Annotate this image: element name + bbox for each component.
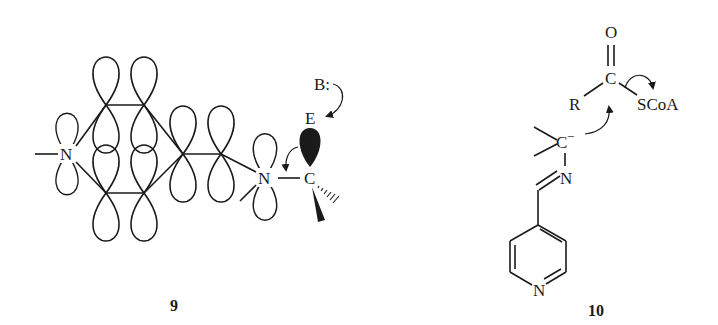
arrow-carbonyl-to-scoa	[625, 75, 653, 88]
p-orbitals	[56, 57, 277, 241]
atom-imine-n: N	[560, 169, 572, 188]
reaction-diagram: N N C E B: 9 O C R SCoA	[0, 0, 718, 325]
pyridine-ring	[510, 225, 566, 285]
atom-r-group: R	[569, 95, 581, 114]
atom-oxygen: O	[605, 23, 617, 42]
atom-thioester: SCoA	[637, 95, 679, 114]
solid-wedge-bond	[312, 187, 325, 222]
arrow-lobe-to-nc-bond	[286, 147, 298, 170]
arrow-carbanion-to-carbonyl	[585, 107, 609, 134]
compound-label-9: 9	[170, 297, 178, 314]
atom-carbon: C	[304, 169, 315, 188]
atom-electrophile: E	[305, 109, 315, 128]
structure-9: N N C E B: 9	[35, 57, 343, 314]
atom-pyridine-n: N	[533, 281, 545, 300]
compound-label-10: 10	[588, 302, 604, 319]
structure-10: O C R SCoA C − N	[510, 23, 679, 319]
carbanion-charge: −	[567, 129, 574, 144]
atom-base: B:	[314, 75, 330, 94]
atom-carbonyl-carbon: C	[605, 69, 616, 88]
atom-carbanion: C	[556, 133, 567, 152]
hashed-wedge-bond	[318, 186, 339, 203]
atom-n-right: N	[258, 169, 270, 188]
atom-n-left: N	[60, 145, 72, 164]
filled-orbital-lobe	[300, 128, 321, 167]
